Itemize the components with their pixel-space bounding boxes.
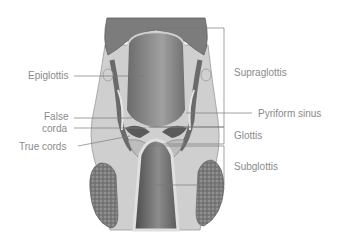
label-subglottis: Subglottis: [234, 161, 278, 172]
larynx-diagram: Epiglottis False corda True cords Suprag…: [0, 0, 342, 239]
label-true-cords: True cords: [19, 141, 66, 152]
label-false-cords-line1: False: [44, 111, 68, 122]
label-pyriform-sinus: Pyriform sinus: [258, 108, 321, 119]
label-glottis: Glottis: [234, 130, 262, 141]
epiglottis-shape: [126, 32, 186, 128]
left-thyroid-lobe: [90, 163, 118, 228]
label-epiglottis: Epiglottis: [28, 70, 69, 81]
right-thyroid-lobe: [196, 160, 224, 226]
label-false-cords-line2: corda: [42, 123, 67, 134]
label-supraglottis: Supraglottis: [234, 67, 287, 78]
